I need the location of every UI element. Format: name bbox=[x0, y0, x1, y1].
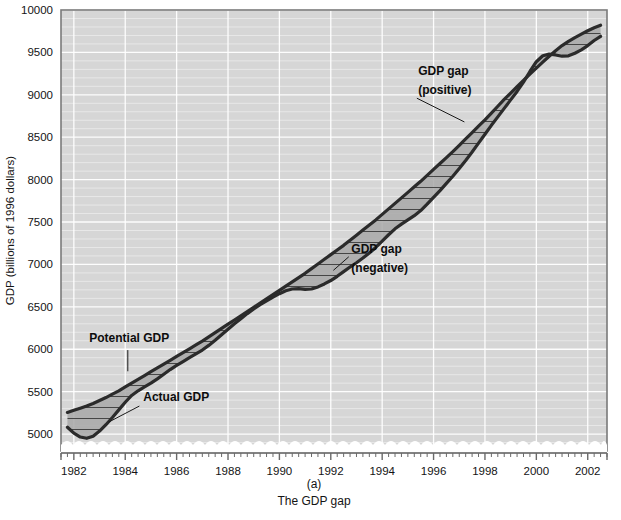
y-tick-label: 6000 bbox=[27, 343, 53, 355]
y-tick-label: 5500 bbox=[27, 386, 53, 398]
x-tick-label: 1988 bbox=[215, 465, 241, 477]
x-tick-label: 2002 bbox=[575, 465, 601, 477]
x-axis-ticks: 1982198419861988199019921994199619982000… bbox=[61, 465, 600, 477]
x-tick-label: 2000 bbox=[524, 465, 550, 477]
y-tick-label: 9500 bbox=[27, 46, 53, 58]
x-tick-label: 1994 bbox=[369, 465, 395, 477]
y-tick-label: 8500 bbox=[27, 131, 53, 143]
y-tick-label: 9000 bbox=[27, 89, 53, 101]
y-axis-title: GDP (billions of 1996 dollars) bbox=[4, 156, 16, 306]
x-axis bbox=[61, 453, 607, 460]
gdp-gap-chart: 5000550060006500700075008000850090009500… bbox=[0, 0, 621, 520]
annotation-gdp-gap-negative-line2: (negative) bbox=[351, 261, 408, 275]
x-tick-label: 1992 bbox=[318, 465, 344, 477]
y-tick-label: 8000 bbox=[27, 174, 53, 186]
y-tick-label: 7500 bbox=[27, 216, 53, 228]
annotation-gdp-gap-positive-line2: (positive) bbox=[418, 83, 471, 97]
figure-caption: (a)The GDP gap bbox=[277, 477, 350, 508]
y-axis-ticks: 5000550060006500700075008000850090009500… bbox=[21, 4, 53, 440]
x-tick-label: 1986 bbox=[164, 465, 190, 477]
annotation-gdp-gap-positive-line1: GDP gap bbox=[418, 64, 468, 78]
y-tick-label: 5000 bbox=[27, 428, 53, 440]
caption-label: (a) bbox=[307, 477, 322, 491]
annotation-actual-gdp: Actual GDP bbox=[143, 390, 209, 404]
y-tick-label: 10000 bbox=[21, 4, 53, 16]
y-tick-label: 7000 bbox=[27, 258, 53, 270]
x-tick-label: 1984 bbox=[112, 465, 138, 477]
caption-title: The GDP gap bbox=[277, 494, 350, 508]
x-tick-label: 1982 bbox=[61, 465, 87, 477]
axis-break bbox=[61, 441, 607, 453]
x-tick-label: 1996 bbox=[421, 465, 447, 477]
annotation-potential-gdp: Potential GDP bbox=[89, 331, 169, 345]
annotation-gdp-gap-negative-line1: GDP gap bbox=[351, 242, 401, 256]
x-tick-label: 1998 bbox=[472, 465, 498, 477]
gdp-gap-figure: 5000550060006500700075008000850090009500… bbox=[0, 0, 621, 520]
x-tick-label: 1990 bbox=[267, 465, 293, 477]
y-tick-label: 6500 bbox=[27, 301, 53, 313]
